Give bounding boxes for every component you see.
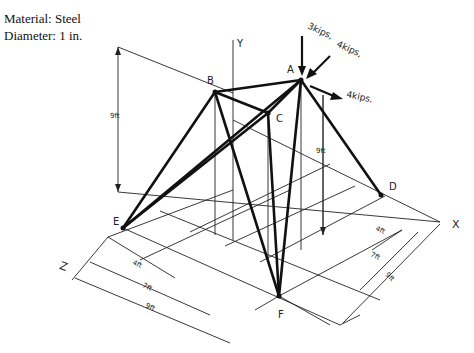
node-label-a: A	[287, 64, 294, 75]
node-b	[213, 90, 218, 95]
dim-label-z-7: 7ft	[141, 282, 153, 293]
inclined-load-arrow	[312, 56, 330, 74]
grid-line	[118, 192, 440, 222]
node-label-b: B	[207, 75, 214, 86]
dim-label-z-4: 4ft	[131, 259, 143, 270]
truss-members	[123, 80, 381, 296]
dim-label-x-4: 4ft	[374, 225, 386, 236]
node-d	[379, 193, 384, 198]
node-label-d: D	[389, 181, 397, 192]
load-label-vertical: 3kips,	[306, 21, 334, 41]
load-label-horizontal: 4kips.	[346, 89, 374, 104]
node-label-c: C	[276, 113, 283, 124]
node-label-f: F	[278, 309, 284, 320]
truss-diagram: A B C D E F Y X Z 3kips, 4kips, 4kips. 9…	[0, 0, 474, 353]
dim-label-height-left: 9ft	[110, 112, 120, 120]
dim-label-x-9: 9ft	[384, 271, 397, 284]
node-e	[121, 226, 126, 231]
axis-label-x: X	[452, 218, 460, 231]
member-be	[123, 92, 215, 228]
node-label-e: E	[113, 216, 119, 227]
nodes	[121, 78, 384, 299]
node-a	[299, 78, 304, 83]
load-label-inclined: 4kips,	[335, 39, 363, 59]
axis-label-z: Z	[58, 259, 70, 274]
node-f	[277, 294, 282, 299]
dim-label-height-right: 9ft	[316, 147, 326, 155]
node-c	[266, 111, 271, 116]
member-bc	[215, 92, 268, 113]
axis-label-y: Y	[236, 38, 244, 49]
dim-label-x-7: 7ft	[369, 251, 381, 262]
